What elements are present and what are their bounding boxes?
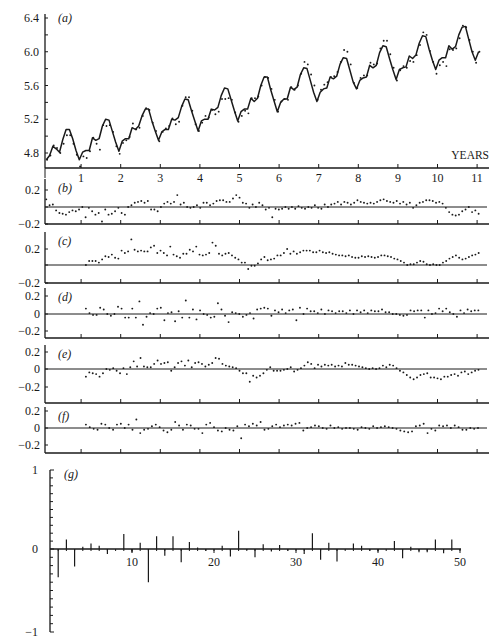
residual-point [256,425,258,427]
residual-point [273,258,275,260]
residual-point [134,249,136,251]
residual-point [402,315,404,317]
residual-point [163,430,165,432]
residual-point [427,432,429,434]
residual-point [218,253,220,255]
observed-point [409,60,411,62]
residual-point [458,257,460,259]
residual-point [153,245,155,247]
residual-point [413,378,415,380]
residual-point [355,365,357,367]
residual-point [140,357,142,359]
residual-point [184,365,186,367]
residual-point [235,194,237,196]
residual-point [377,310,379,312]
residual-point [330,204,332,206]
residual-point [190,425,192,427]
observed-point [439,64,441,66]
observed-point [125,139,127,141]
residual-point [462,429,464,431]
residual-point [269,366,271,368]
residual-point [89,312,91,314]
residual-point [265,209,267,211]
residual-point [112,367,114,369]
residual-point [248,207,250,209]
residual-point [163,252,165,254]
residual-point [283,425,285,427]
residual-point [376,427,378,429]
panel-c-residuals: 0.2−0.2(c) [18,232,489,290]
observed-point [208,117,210,119]
residual-point [365,367,367,369]
residual-point [371,256,373,258]
residual-point [166,254,168,256]
residual-point [201,432,203,434]
residual-point [143,366,145,368]
residual-point [238,258,240,260]
residual-point [467,373,469,375]
residual-point [239,197,241,199]
residual-point [143,429,145,431]
residual-point [452,256,454,258]
residual-point [117,258,119,260]
residual-point [153,363,155,365]
residual-point [160,363,162,365]
residual-point [343,201,345,203]
residual-point [156,308,158,310]
residual-point [465,429,467,431]
observed-point [247,112,249,114]
residual-point [477,427,479,429]
observed-point [313,85,315,87]
residual-point [186,206,188,208]
observed-point [228,97,230,99]
residual-point [383,198,385,200]
residual-point [228,321,230,323]
residual-point [388,426,390,428]
observed-point [234,112,236,114]
residual-point [225,365,227,367]
residual-point [182,429,184,431]
residual-point [364,256,366,258]
residual-point [198,428,200,430]
observed-point [469,39,471,41]
observed-point [112,131,114,133]
residual-point [132,429,134,431]
observed-point [337,71,339,73]
residual-point [252,375,254,377]
observed-point [432,61,434,63]
residual-point [439,264,441,266]
residual-point [228,366,230,368]
residual-point [337,426,339,428]
residual-point [465,209,467,211]
observed-point [231,99,233,101]
residual-point [215,245,217,247]
residual-point [360,311,362,313]
residual-point [249,381,251,383]
residual-point [85,216,87,218]
residual-point [267,308,269,310]
y-tick-label: −0.2 [18,380,40,394]
residual-point [327,365,329,367]
residual-point [465,258,467,260]
residual-point [415,425,417,427]
observed-point [172,117,174,119]
y-tick-label: 1 [32,463,38,477]
residual-point [455,254,457,256]
residual-point [437,377,439,379]
residual-point [116,424,118,426]
observed-point [465,26,467,28]
residual-point [231,311,233,313]
residual-point [478,252,480,254]
residual-point [189,207,191,209]
residual-point [451,214,453,216]
y-tick-label: 0.2 [25,289,40,303]
observed-point [132,123,134,125]
observed-point [201,122,203,124]
residual-point [120,423,122,425]
observed-point [356,87,358,89]
residual-point [236,425,238,427]
residual-point [85,376,87,378]
observed-point [277,111,279,113]
residual-point [147,428,149,430]
residual-point [99,376,101,378]
